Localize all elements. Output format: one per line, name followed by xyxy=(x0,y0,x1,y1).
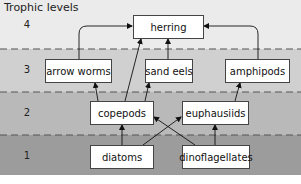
node-euphausiids: euphausiids xyxy=(182,101,249,125)
node-copepods: copepods xyxy=(90,101,154,125)
arrow-copepods-arrowworms xyxy=(95,83,98,101)
node-herring: herring xyxy=(133,15,204,39)
arrow-amphipods-herring xyxy=(204,26,258,59)
node-amphipods: amphipods xyxy=(225,59,290,83)
level-label-1: 1 xyxy=(22,150,32,161)
arrow-arrowworms-herring xyxy=(79,26,132,59)
level-label-2: 2 xyxy=(22,107,32,118)
node-arrow-worms: arrow worms xyxy=(45,59,112,83)
level-label-4: 4 xyxy=(22,19,32,30)
node-dinoflagellates: dinoflagellates xyxy=(182,145,250,169)
diagram-title: Trophic levels xyxy=(4,1,79,14)
node-sand-eels: sand eels xyxy=(145,59,193,83)
food-web-diagram: Trophic levels 4 3 2 1 herring arrow wor… xyxy=(0,0,301,184)
level-label-3: 3 xyxy=(22,64,32,75)
node-diatoms: diatoms xyxy=(90,145,154,169)
